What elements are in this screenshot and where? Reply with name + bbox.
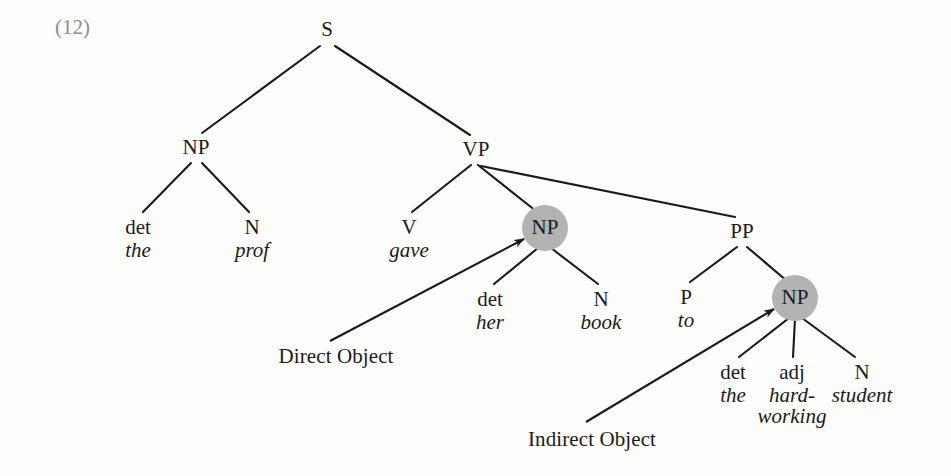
word-the-subject: the (125, 240, 151, 261)
node-pp: PP (730, 221, 753, 242)
edge-s-np (202, 46, 320, 133)
edge-npindirect-n (802, 318, 855, 357)
node-n-book: N (593, 289, 608, 310)
edge-np-det (143, 163, 191, 212)
syntax-tree-figure: (12) S NP VP det the N prof V gave NP de… (0, 0, 951, 476)
word-her: her (476, 312, 504, 333)
edge-npindirect-adj (793, 319, 795, 357)
word-hardworking: hard- working (758, 385, 827, 427)
edge-pp-np (747, 247, 787, 281)
node-vp: VP (463, 139, 490, 160)
edge-npdirect-n (551, 248, 598, 284)
annotation-direct-object: Direct Object (279, 346, 394, 367)
word-prof: prof (235, 240, 269, 261)
edge-pp-p (690, 247, 737, 282)
word-student: student (832, 385, 893, 406)
word-the-indirect: the (720, 385, 746, 406)
word-hardworking-line2: working (758, 406, 827, 427)
edge-npdirect-det (494, 248, 538, 284)
highlight-circles (522, 205, 818, 321)
node-p-to: P (680, 287, 692, 308)
node-n-student: N (854, 362, 869, 383)
node-np-subject: NP (183, 137, 210, 158)
node-np-direct-object: NP (532, 217, 559, 238)
node-adj-hardworking: adj (779, 362, 805, 383)
edge-vp-pp (481, 166, 735, 217)
node-det-her: det (477, 289, 503, 310)
edge-npindirect-det (739, 318, 789, 357)
word-to: to (678, 310, 694, 331)
word-book: book (581, 312, 622, 333)
word-hardworking-line1: hard- (758, 385, 827, 406)
edge-s-vp (335, 46, 470, 135)
example-number: (12) (55, 17, 90, 38)
word-gave: gave (389, 240, 429, 261)
edge-np-n (202, 163, 249, 212)
node-s: S (321, 19, 333, 40)
node-v-gave: V (401, 217, 416, 238)
node-n-prof: N (244, 217, 259, 238)
annotation-indirect-object: Indirect Object (528, 429, 656, 450)
node-np-indirect-object: NP (782, 287, 809, 308)
node-det-the-indirect: det (720, 362, 746, 383)
node-det-the-subject: det (125, 217, 151, 238)
edge-vp-v (412, 165, 471, 212)
annotation-arrows (330, 239, 774, 422)
